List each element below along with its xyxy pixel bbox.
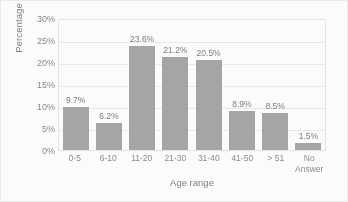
y-tick-label: 10% xyxy=(27,102,55,112)
plot-area: 9.7%6.2%23.6%21.2%20.5%8.9%8.5%1.5% xyxy=(58,19,326,151)
bar-value-label: 23.6% xyxy=(130,34,154,44)
bar[interactable] xyxy=(129,46,155,150)
bar[interactable] xyxy=(96,123,122,150)
y-tick-label: 20% xyxy=(27,58,55,68)
bar-value-label: 8.5% xyxy=(265,101,284,111)
bar-slot: 21.2% xyxy=(159,20,192,150)
bar-slot: 8.5% xyxy=(259,20,292,150)
y-tick-label: 5% xyxy=(27,124,55,134)
bar-value-label: 6.2% xyxy=(99,111,118,121)
y-tick-label: 30% xyxy=(27,14,55,24)
bar[interactable] xyxy=(196,60,222,150)
bar[interactable] xyxy=(229,111,255,150)
bar[interactable] xyxy=(262,113,288,150)
y-axis-tick-labels: 30%25%20%15%10%5%0% xyxy=(25,1,55,202)
bar-slot: 23.6% xyxy=(126,20,159,150)
y-tick-label: 25% xyxy=(27,36,55,46)
bar-value-label: 1.5% xyxy=(299,131,318,141)
bar-slot: 9.7% xyxy=(59,20,92,150)
bar-slot: 8.9% xyxy=(225,20,258,150)
bar[interactable] xyxy=(295,143,321,150)
bar-value-label: 8.9% xyxy=(232,99,251,109)
y-tick-label: 15% xyxy=(27,80,55,90)
bar-series: 9.7%6.2%23.6%21.2%20.5%8.9%8.5%1.5% xyxy=(59,20,325,150)
bar-value-label: 9.7% xyxy=(66,95,85,105)
bar-value-label: 20.5% xyxy=(197,48,221,58)
bar-slot: 1.5% xyxy=(292,20,325,150)
bar-chart-figure: Percentage 30%25%20%15%10%5%0% 9.7%6.2%2… xyxy=(0,0,348,202)
bar[interactable] xyxy=(162,57,188,150)
bar-slot: 6.2% xyxy=(92,20,125,150)
bar-slot: 20.5% xyxy=(192,20,225,150)
bar[interactable] xyxy=(63,107,89,150)
y-tick-label: 0% xyxy=(27,146,55,156)
x-axis-title: Age range xyxy=(58,177,326,188)
bar-value-label: 21.2% xyxy=(163,45,187,55)
